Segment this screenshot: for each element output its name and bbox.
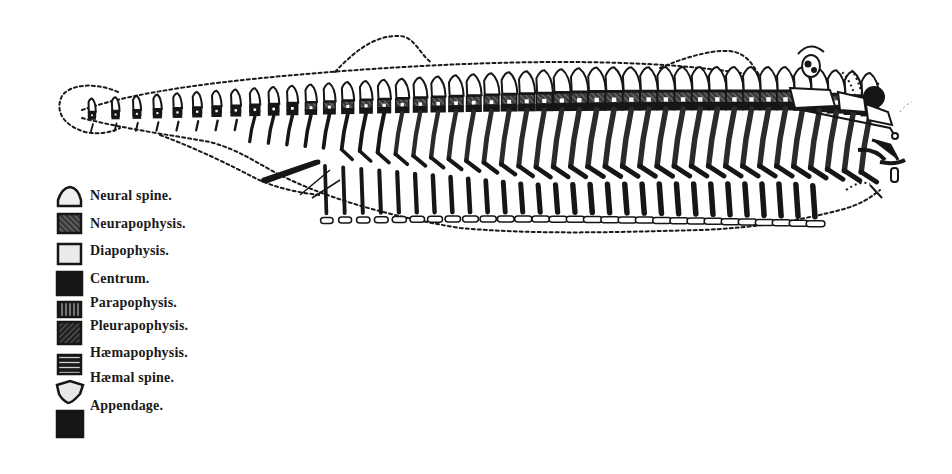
- legend-label: Pleurapophysis.: [90, 318, 188, 334]
- legend-label: Hæmal spine.: [90, 370, 174, 386]
- legend-item-pleurapophysis: Pleurapophysis.: [55, 314, 275, 338]
- legend-item-haemapophysis: Hæmapophysis.: [55, 341, 275, 365]
- legend-item-neural-spine: Neural spine.: [55, 184, 275, 208]
- legend: Neural spine. Neurapophysis. Diapophysis…: [55, 186, 275, 404]
- legend-label: Centrum.: [90, 271, 150, 287]
- legend-label: Appendage.: [90, 398, 163, 414]
- legend-item-haemal-spine: Hæmal spine.: [55, 366, 275, 390]
- legend-label: Neurapophysis.: [90, 216, 186, 232]
- legend-label: Diapophysis.: [90, 243, 169, 259]
- legend-item-centrum: Centrum.: [55, 267, 275, 291]
- legend-item-neurapophysis: Neurapophysis.: [55, 212, 275, 236]
- legend-label: Neural spine.: [90, 188, 172, 204]
- legend-item-diapophysis: Diapophysis.: [55, 239, 275, 263]
- legend-item-parapophysis: Parapophysis.: [55, 291, 275, 315]
- legend-item-appendage: Appendage.: [55, 394, 275, 418]
- legend-label: Hæmapophysis.: [90, 345, 188, 361]
- legend-label: Parapophysis.: [90, 295, 177, 311]
